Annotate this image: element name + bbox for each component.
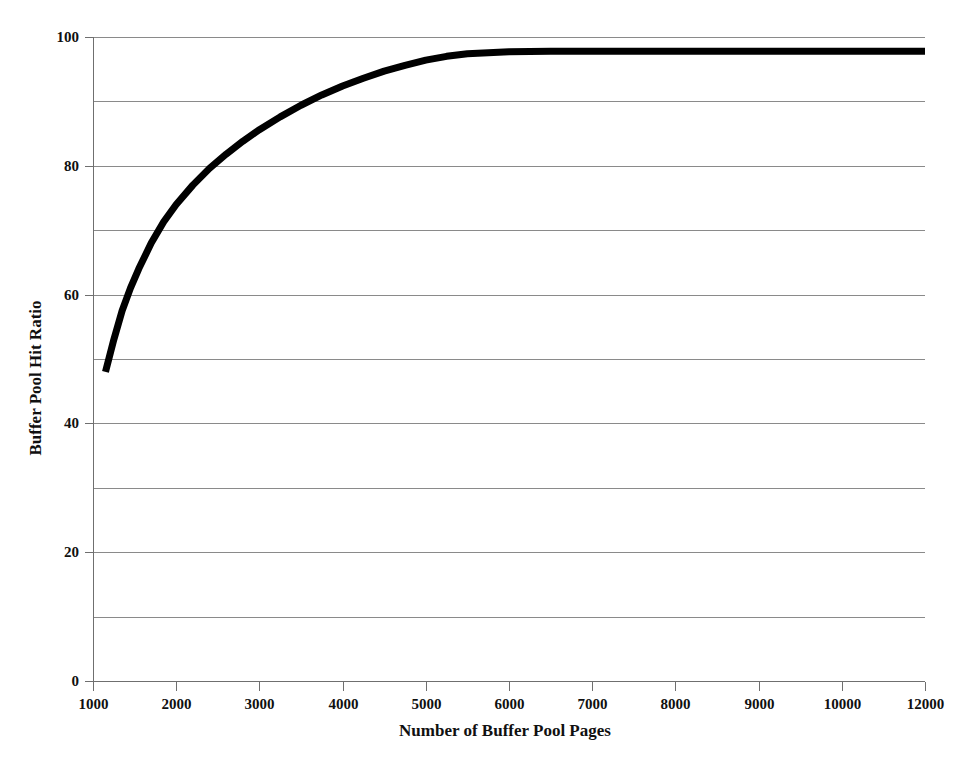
x-tick-label: 3000 [245,696,275,712]
figure-background [0,0,971,767]
y-tick-label: 0 [72,673,80,689]
x-tick-label: 6000 [495,696,525,712]
x-tick-label: 8000 [661,696,691,712]
y-axis-title: Buffer Pool Hit Ratio [26,300,45,455]
x-tick-label: 1000 [79,696,109,712]
x-tick-label: 5000 [412,696,442,712]
chart-figure: 020406080100 100020003000400050006000700… [0,0,971,767]
x-tick-label: 4000 [329,696,359,712]
y-tick-label: 100 [57,29,80,45]
x-tick-label: 2000 [162,696,192,712]
x-tick-label: 10000 [824,696,862,712]
x-axis-title: Number of Buffer Pool Pages [399,721,611,740]
y-tick-label: 20 [64,544,79,560]
y-tick-label: 40 [64,415,79,431]
x-tick-label: 7000 [578,696,608,712]
x-tick-label: 12000 [907,696,945,712]
y-tick-label: 80 [64,158,79,174]
x-tick-label: 9000 [745,696,775,712]
y-tick-label: 60 [64,287,79,303]
chart-canvas: 020406080100 100020003000400050006000700… [0,0,971,767]
